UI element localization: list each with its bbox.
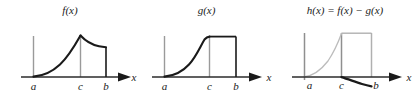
tick-label-b: b bbox=[103, 80, 109, 92]
x-axis-label: x bbox=[406, 71, 412, 83]
tick-label-a: a bbox=[31, 80, 37, 92]
curve-h-negative-branch bbox=[342, 77, 372, 86]
panel-h-plot: a c b x bbox=[275, 0, 415, 105]
curve-f-decay bbox=[81, 36, 107, 48]
x-axis-arrowhead bbox=[249, 73, 262, 82]
x-axis-label: x bbox=[266, 71, 272, 83]
tick-label-b: b bbox=[233, 80, 239, 92]
tick-label-b: b bbox=[373, 79, 379, 91]
panel-h: h(x) = f(x) − g(x) a c b bbox=[275, 0, 415, 105]
tick-label-a: a bbox=[307, 79, 313, 91]
x-axis-arrowhead bbox=[118, 73, 131, 82]
panel-g: g(x) a c b x bbox=[138, 0, 275, 105]
panel-f: f(x) a c b x bbox=[0, 0, 140, 105]
x-axis-label: x bbox=[131, 71, 137, 83]
curve-h-positive-branch bbox=[305, 34, 342, 77]
tick-label-c: c bbox=[339, 79, 344, 91]
curve-g bbox=[165, 37, 210, 77]
tick-label-a: a bbox=[162, 80, 168, 92]
tick-label-c: c bbox=[207, 80, 212, 92]
tick-label-c: c bbox=[78, 80, 83, 92]
x-axis-arrowhead bbox=[389, 73, 402, 82]
panel-f-plot: a c b x bbox=[0, 0, 140, 105]
figure-three-panel-plot: f(x) a c b x bbox=[0, 0, 415, 105]
panel-g-plot: a c b x bbox=[138, 0, 275, 105]
curve-f bbox=[34, 36, 81, 77]
